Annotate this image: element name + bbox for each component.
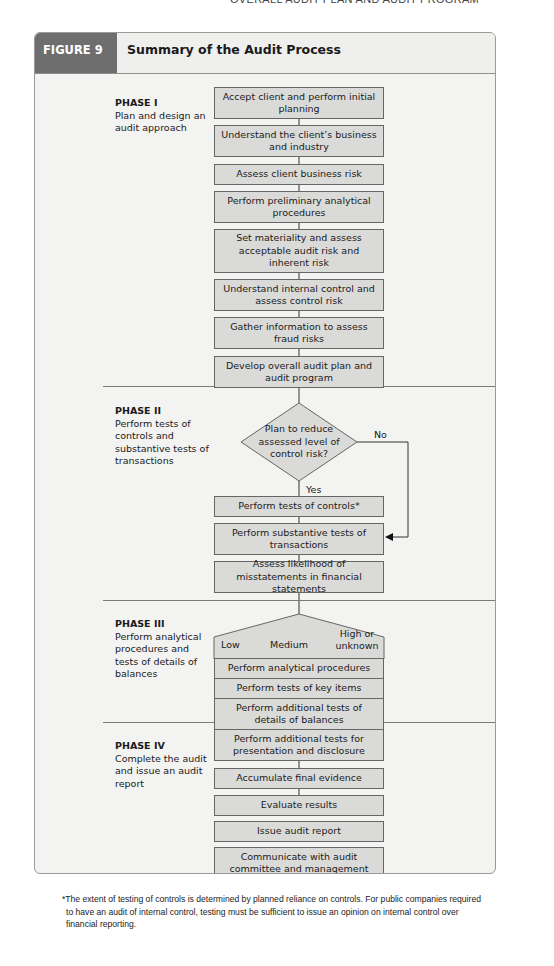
no-label: No (374, 429, 387, 440)
phase-1-label: PHASE I Plan and design an audit approac… (115, 97, 215, 135)
step-box: Assess client business risk (214, 164, 384, 185)
step-box: Accept client and perform initial planni… (214, 87, 384, 119)
step-box: Perform tests of key items (214, 678, 384, 699)
footnote: *The extent of testing of controls is de… (62, 893, 486, 931)
level-low: Low (221, 639, 240, 651)
step-box: Set materiality and assess acceptable au… (214, 229, 384, 273)
step-box: Perform preliminary analytical procedure… (214, 191, 384, 223)
running-header: OVERALL AUDIT PLAN AND AUDIT PROGRAM (230, 0, 479, 5)
step-box: Communicate with audit committee and man… (214, 847, 384, 874)
phase-2-label: PHASE II Perform tests of controls and s… (115, 405, 215, 468)
phase-4-label: PHASE IV Complete the audit and issue an… (115, 740, 215, 790)
step-box: Issue audit report (214, 821, 384, 842)
step-box: Accumulate final evidence (214, 768, 384, 789)
level-high: High or unknown (334, 628, 380, 652)
phase-divider (103, 600, 495, 601)
step-box: Perform additional tests of details of b… (214, 698, 384, 730)
figure-title: Summary of the Audit Process (127, 42, 341, 57)
yes-label: Yes (306, 484, 321, 495)
step-box: Gather information to assess fraud risks (214, 317, 384, 349)
step-box: Perform substantive tests of transaction… (214, 523, 384, 555)
step-box: Perform analytical procedures (214, 658, 384, 679)
figure-header: FIGURE 9 Summary of the Audit Process (35, 33, 495, 74)
level-medium: Medium (270, 639, 308, 651)
step-box: Perform tests of controls* (214, 496, 384, 517)
arrowhead-icon (385, 533, 393, 541)
figure-panel: FIGURE 9 Summary of the Audit Process PH… (34, 32, 496, 874)
step-box: Understand internal control and assess c… (214, 279, 384, 311)
step-box: Develop overall audit plan and audit pro… (214, 356, 384, 388)
step-box: Evaluate results (214, 795, 384, 816)
decision-text: Plan to reduce assessed level of control… (249, 423, 349, 461)
step-box: Assess likelihood of misstatements in fi… (214, 561, 384, 593)
figure-label: FIGURE 9 (35, 33, 117, 73)
step-box: Perform additional tests for presentatio… (214, 729, 384, 761)
step-box: Understand the client’s business and ind… (214, 125, 384, 157)
phase-3-label: PHASE III Perform analytical procedures … (115, 618, 215, 681)
